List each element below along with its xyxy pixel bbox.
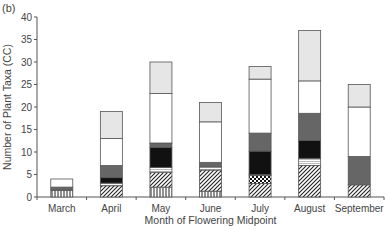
x-tick-label: August (294, 203, 325, 214)
bar-segment-black (299, 140, 321, 158)
bar-segment-dark-grey (150, 143, 172, 148)
bar-segment-diagonal-hatch (150, 172, 172, 187)
bar-segment-diagonal-hatch (200, 170, 222, 191)
y-tick-label: 15 (21, 124, 33, 135)
x-tick-label: May (151, 203, 170, 214)
stacked-bar-chart: 0510152025303540MarchAprilMayJuneJulyAug… (0, 0, 386, 230)
bar-segment-diagonal-hatch (100, 186, 122, 197)
bar-segment-light-stripe (150, 167, 172, 172)
bar-segment-diagonal-hatch (348, 185, 370, 197)
y-tick-label: 30 (21, 57, 33, 68)
bar-segment-dark-grey (51, 187, 73, 190)
bar-segment-dark-grey (200, 162, 222, 167)
y-tick-label: 0 (26, 192, 32, 203)
bar-july (249, 67, 271, 198)
bar-march (51, 179, 73, 197)
x-tick-label: September (335, 203, 385, 214)
bar-segment-light-grey (100, 112, 122, 139)
x-tick-label: June (200, 203, 222, 214)
y-tick-label: 10 (21, 147, 33, 158)
bar-segment-light-grey (299, 31, 321, 81)
bar-segment-diagonal-hatch (249, 184, 271, 198)
bars (51, 31, 370, 198)
bar-september (348, 85, 370, 198)
bar-segment-dark-grey (299, 113, 321, 140)
bar-april (100, 112, 122, 198)
bar-segment-dark-grey (100, 166, 122, 178)
bar-segment-light-stripe (100, 183, 122, 186)
y-tick-label: 40 (21, 12, 33, 23)
y-tick-label: 35 (21, 34, 33, 45)
bar-segment-light-stripe (200, 167, 222, 170)
bar-segment-white (249, 79, 271, 133)
bar-segment-black (100, 178, 122, 183)
bar-august (299, 31, 321, 198)
x-tick-label: July (251, 203, 269, 214)
bar-segment-white (299, 81, 321, 113)
bar-segment-dark-grey (249, 133, 271, 151)
bar-segment-white (100, 139, 122, 166)
bar-segment-dark-grey (348, 157, 370, 185)
y-tick-label: 5 (26, 169, 32, 180)
x-tick-label: March (48, 203, 76, 214)
bar-segment-white (150, 94, 172, 144)
bar-segment-vertical-hatch (150, 187, 172, 197)
bar-segment-white (51, 179, 73, 187)
bar-segment-light-grey (150, 62, 172, 94)
bar-segment-black (249, 151, 271, 174)
bar-may (150, 62, 172, 197)
bar-segment-vertical-hatch (200, 191, 222, 197)
chart-container: (b) 0510152025303540MarchAprilMayJuneJul… (0, 0, 386, 230)
bar-segment-diagonal-hatch (299, 166, 321, 198)
x-axis-title: Month of Flowering Midpoint (145, 214, 277, 226)
bar-segment-dotted (249, 175, 271, 183)
x-tick-label: April (101, 203, 121, 214)
bar-june (200, 103, 222, 198)
bar-segment-light-stripe (299, 158, 321, 165)
bar-segment-white (348, 107, 370, 157)
y-tick-label: 25 (21, 79, 33, 90)
bar-segment-light-grey (200, 103, 222, 122)
bar-segment-light-grey (249, 67, 271, 80)
bar-segment-light-grey (348, 85, 370, 108)
y-axis-title: Number of Plant Taxa (CC) (1, 44, 13, 170)
bar-segment-vertical-hatch (51, 190, 73, 197)
y-tick-label: 20 (21, 102, 33, 113)
bar-segment-white (200, 122, 222, 163)
bar-segment-black (150, 148, 172, 168)
